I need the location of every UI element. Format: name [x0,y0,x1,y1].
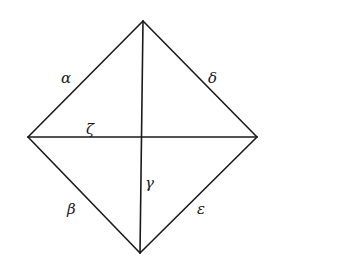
edge-epsilon [140,137,257,253]
label-zeta: ζ [86,120,95,138]
edge-delta [143,21,257,137]
label-delta: δ [208,69,217,87]
label-gamma: γ [145,174,154,192]
label-epsilon: ε [197,200,205,218]
edges-group [28,21,257,253]
label-alpha: α [61,69,71,87]
edge-beta [28,137,140,253]
rhombus-diagram: αδβεζγ [0,0,351,266]
label-beta: β [66,200,76,218]
